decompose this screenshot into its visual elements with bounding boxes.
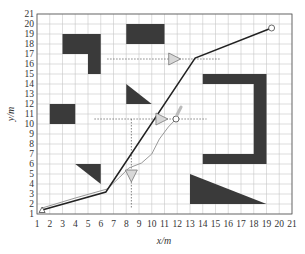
y-tick-label: 13: [25, 89, 35, 99]
goal-circle-icon: [269, 25, 275, 31]
x-tick-label: 12: [173, 219, 183, 229]
x-tick-label: 9: [137, 219, 142, 229]
x-tick-label: 5: [86, 219, 91, 229]
x-tick-label: 13: [185, 219, 195, 229]
y-tick-label: 11: [25, 109, 34, 119]
x-tick-label: 2: [47, 219, 52, 229]
actual-path-line: [42, 119, 176, 208]
obstacle: [63, 34, 101, 74]
y-tick-label: 2: [29, 199, 34, 209]
x-tick-label: 8: [124, 219, 129, 229]
x-tick-labels: 123456789101112131415161718192021: [35, 219, 297, 229]
y-tick-label: 10: [25, 119, 35, 129]
y-tick-label: 17: [25, 49, 35, 59]
x-tick-label: 15: [211, 219, 221, 229]
y-tick-label: 16: [25, 59, 35, 69]
obstacle: [126, 24, 164, 44]
y-tick-label: 21: [25, 9, 35, 19]
y-tick-label: 3: [29, 189, 34, 199]
y-tick-label: 5: [29, 169, 34, 179]
y-tick-label: 20: [25, 19, 35, 29]
x-tick-label: 3: [60, 219, 65, 229]
moving-obstacle-1-icon: [169, 53, 181, 65]
y-tick-label: 12: [25, 99, 35, 109]
y-tick-label: 1: [29, 209, 34, 219]
y-tick-label: 18: [25, 39, 35, 49]
x-tick-label: 14: [198, 219, 208, 229]
y-axis-label: y/m: [5, 107, 16, 122]
x-tick-label: 20: [275, 219, 285, 229]
x-tick-label: 11: [160, 219, 169, 229]
x-tick-label: 21: [287, 219, 297, 229]
x-tick-label: 10: [147, 219, 157, 229]
path-planning-chart: 123456789101112131415161718192021 123456…: [0, 0, 305, 254]
obstacle: [203, 74, 267, 164]
x-tick-label: 16: [224, 219, 234, 229]
y-tick-label: 7: [29, 149, 34, 159]
x-tick-label: 1: [35, 219, 40, 229]
moving-obstacle-2-icon: [156, 113, 168, 125]
x-tick-label: 4: [73, 219, 78, 229]
x-axis-label: x/m: [156, 235, 171, 246]
y-tick-label: 6: [29, 159, 34, 169]
y-tick-label: 9: [29, 129, 34, 139]
y-tick-label: 4: [29, 179, 34, 189]
moving-obstacle-3-icon: [125, 170, 137, 182]
x-tick-label: 7: [111, 219, 116, 229]
robot-position-circle-icon: [173, 116, 179, 122]
x-tick-label: 19: [262, 219, 272, 229]
x-tick-label: 18: [249, 219, 259, 229]
y-tick-label: 19: [25, 29, 35, 39]
y-tick-label: 8: [29, 139, 34, 149]
x-tick-label: 6: [98, 219, 103, 229]
y-tick-label: 15: [25, 69, 35, 79]
y-tick-labels: 123456789101112131415161718192021: [25, 9, 35, 219]
y-tick-label: 14: [25, 79, 35, 89]
dynamic-obstacles: [125, 53, 180, 182]
obstacle: [50, 104, 76, 124]
x-tick-label: 17: [236, 219, 246, 229]
